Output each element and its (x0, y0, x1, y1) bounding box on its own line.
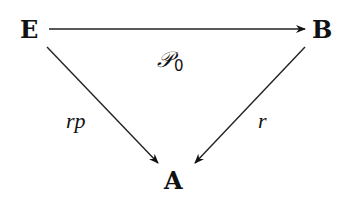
arrow-B-to-A (195, 47, 305, 163)
arrow-label-P0-subscript: 0 (174, 57, 184, 75)
arrow-label-r: r (258, 110, 267, 132)
arrow-E-to-A (47, 47, 158, 163)
arrow-label-P0-main: 𝒫 (157, 47, 173, 72)
arrow-label-rp: rp (66, 110, 86, 132)
arrow-label-P0: 𝒫0 (157, 49, 184, 74)
node-A: A (164, 169, 183, 193)
node-B: B (312, 18, 332, 42)
node-E: E (20, 18, 38, 42)
